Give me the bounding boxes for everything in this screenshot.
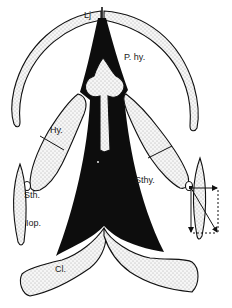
- interopercle-left: [14, 164, 26, 245]
- label-lower-jaw: Lj: [84, 10, 91, 20]
- label-sternohyoideus: Sthy.: [135, 175, 155, 185]
- hyoid-left: [30, 94, 86, 191]
- label-parahyal: P. hy.: [124, 52, 145, 62]
- label-hyoid: Hy.: [50, 125, 63, 135]
- anatomical-diagram: Lj P. hy. Hy. Sth. Iop. Sthy. Cl.: [0, 0, 232, 308]
- label-cleithrum: Cl.: [55, 264, 66, 274]
- label-interopercle: Iop.: [26, 218, 41, 228]
- center-dot: [97, 161, 99, 163]
- interopercle-right: [194, 158, 206, 239]
- label-stylohyal: Sth.: [24, 190, 40, 200]
